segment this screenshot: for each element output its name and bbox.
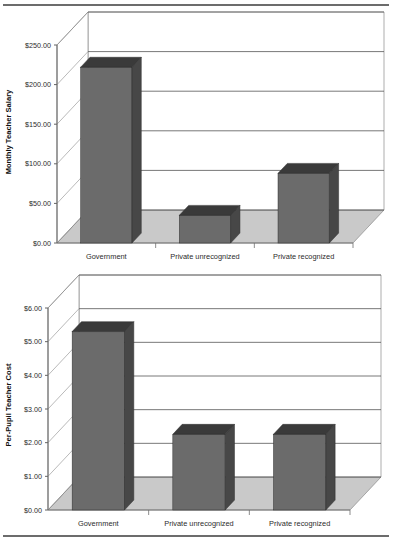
bar-2 [179,205,240,243]
bar-3 [273,424,335,510]
bar-2 [173,424,235,510]
x-category-label: Private recognized [269,519,330,528]
y-tick-label: $0.00 [24,506,42,515]
plot-area-salary [54,12,384,243]
y-tick-label: $0.00 [33,239,51,248]
bar-3 [278,163,339,243]
y-tick-label: $150.00 [25,120,51,129]
bar-1 [72,322,134,510]
y-tick-label: $4.00 [24,371,42,380]
x-category-label: Private unrecognized [164,519,233,528]
x-category-label: Private unrecognized [170,252,239,261]
bar-1 [81,57,142,243]
x-category-label: Private recognized [273,252,334,261]
y-tick-label: $6.00 [24,304,42,313]
y-tick-label: $5.00 [24,337,42,346]
y-axis-tick-labels-salary: $0.00$50.00$100.00$150.00$200.00$250.00 [25,41,51,248]
y-tick-label: $50.00 [29,199,51,208]
y-tick-label: $1.00 [24,472,42,481]
x-category-label: Government [86,252,127,261]
x-axis-category-labels-cost: GovernmentPrivate unrecognizedPrivate re… [78,510,350,528]
chart-monthly-teacher-salary: $0.00$50.00$100.00$150.00$200.00$250.00 … [0,0,393,270]
y-tick-label: $250.00 [25,41,51,50]
x-category-label: Government [78,519,119,528]
chart-cost-svg: $0.00$1.00$2.00$3.00$4.00$5.00$6.00 Gove… [0,270,393,541]
y-tick-label: $200.00 [25,80,51,89]
chart-per-pupil-teacher-cost: $0.00$1.00$2.00$3.00$4.00$5.00$6.00 Gove… [0,270,393,541]
y-axis-title-salary: Monthly Teacher Salary [4,89,13,174]
chart-salary-svg: $0.00$50.00$100.00$150.00$200.00$250.00 … [0,0,393,270]
y-tick-label: $2.00 [24,438,42,447]
y-tick-label: $3.00 [24,405,42,414]
y-tick-label: $100.00 [25,159,51,168]
figure-page: $0.00$50.00$100.00$150.00$200.00$250.00 … [0,0,393,541]
x-axis-category-labels-salary: GovernmentPrivate unrecognizedPrivate re… [86,243,353,261]
y-axis-title-cost: Per-Pupil Teacher Cost [4,363,13,446]
y-axis-tick-labels-cost: $0.00$1.00$2.00$3.00$4.00$5.00$6.00 [24,304,42,515]
plot-area-cost [45,275,381,510]
